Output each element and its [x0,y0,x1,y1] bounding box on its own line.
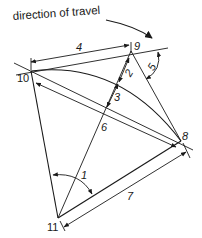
point-11-label: 11 [47,221,58,233]
point-10-label: 10 [17,72,29,84]
measurement-7: 7 [127,190,134,202]
measurement-2: 2 [121,67,135,79]
line-10-11 [31,71,58,218]
measurement-4: 4 [76,41,82,53]
dimension-line-6 [36,83,176,147]
measurement-5: 5 [145,60,159,72]
direction-of-travel-label: direction of travel [12,4,100,22]
line-11-8 [58,141,181,218]
direction-arrow [106,20,152,38]
point-8-label: 8 [182,130,189,142]
line-9-8 [131,51,181,141]
tangent-line-10-9 [16,48,168,75]
chord-line-10-8 [14,63,193,150]
measurement-3: 3 [114,91,121,103]
measurement-1: 1 [81,169,87,181]
point-9-label: 9 [134,40,140,52]
measurement-6: 6 [101,121,108,133]
survey-diagram: direction of travel 4 9 10 2 5 3 6 8 1 7… [0,0,202,238]
